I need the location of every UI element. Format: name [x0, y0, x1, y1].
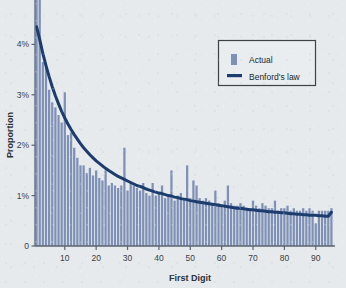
bar: [214, 191, 216, 246]
bar: [167, 196, 169, 246]
x-tick-label: 10: [60, 253, 70, 263]
bar: [79, 165, 81, 246]
y-tick-label: 4%: [17, 39, 30, 49]
bar: [158, 193, 160, 246]
bar: [221, 206, 223, 246]
x-tick-label: 90: [311, 253, 321, 263]
bar: [86, 173, 88, 246]
bar: [48, 90, 50, 246]
bar: [111, 183, 113, 246]
x-tick-label: 60: [217, 253, 227, 263]
bar: [230, 203, 232, 246]
bar: [142, 183, 144, 246]
bar: [70, 133, 72, 246]
legend-label-benford-law: Benford's law: [249, 72, 301, 82]
bar: [274, 201, 276, 246]
x-tick-label: 20: [91, 253, 101, 263]
bar: [123, 148, 125, 246]
bar: [35, 0, 37, 246]
y-tick-label: 0: [24, 241, 29, 251]
bar: [54, 107, 56, 246]
bar: [189, 198, 191, 246]
bar: [249, 208, 251, 246]
bar: [205, 198, 207, 246]
bar: [130, 183, 132, 246]
bar: [242, 206, 244, 246]
bar: [133, 186, 135, 246]
bar: [199, 198, 201, 246]
bar: [98, 178, 100, 246]
bar: [108, 186, 110, 246]
bar: [217, 203, 219, 246]
bar: [101, 180, 103, 246]
bar: [114, 186, 116, 246]
y-axis-label: Proportion: [5, 112, 15, 158]
bar: [208, 201, 210, 246]
x-tick-label: 80: [280, 253, 290, 263]
bar: [170, 170, 172, 246]
bar: [315, 223, 317, 246]
bar: [139, 191, 141, 246]
bar: [180, 193, 182, 246]
bar: [258, 208, 260, 246]
bar: [299, 211, 301, 246]
bar: [290, 211, 292, 246]
chart-legend[interactable]: Actual Benford's law: [219, 41, 316, 86]
legend-swatch-benford-law: [227, 74, 242, 77]
bar: [67, 135, 69, 246]
legend-label-actual: Actual: [249, 55, 273, 65]
x-tick-label: 40: [154, 253, 164, 263]
bar: [227, 186, 229, 246]
bar: [236, 206, 238, 246]
legend-swatch-actual: [231, 54, 237, 65]
chart-canvas: 01%2%3%4%5% 102030405060708090 Proportio…: [0, 0, 346, 288]
bar: [271, 208, 273, 246]
x-tick-label: 30: [123, 253, 133, 263]
bar: [173, 201, 175, 246]
benford-chart-figure: 01%2%3%4%5% 102030405060708090 Proportio…: [0, 0, 346, 288]
y-tick-label: 1%: [17, 191, 30, 201]
bar: [183, 198, 185, 246]
bar: [277, 211, 279, 246]
bar: [186, 165, 188, 246]
bar: [195, 186, 197, 246]
bar: [89, 168, 91, 246]
y-tick-label: 2%: [17, 140, 30, 150]
bar: [192, 180, 194, 246]
bar: [82, 165, 84, 246]
x-axis-label: First Digit: [169, 273, 211, 283]
bar: [202, 201, 204, 246]
bar: [117, 188, 119, 246]
bar: [177, 196, 179, 246]
bar: [126, 191, 128, 246]
bar: [246, 208, 248, 246]
bar: [61, 123, 63, 246]
bar: [95, 170, 97, 246]
bar: [155, 196, 157, 246]
bar: [268, 208, 270, 246]
bar: [120, 186, 122, 246]
bar: [164, 198, 166, 246]
bar: [148, 196, 150, 246]
bar: [211, 203, 213, 246]
bar: [296, 211, 298, 246]
bar: [57, 115, 59, 246]
bar: [145, 193, 147, 246]
bar: [233, 206, 235, 246]
x-tick-label: 50: [186, 253, 196, 263]
y-tick-label: 3%: [17, 90, 30, 100]
bar: [136, 188, 138, 246]
bar: [76, 158, 78, 246]
bar: [73, 148, 75, 246]
bar: [51, 102, 53, 246]
x-tick-label: 70: [248, 253, 258, 263]
bar: [45, 65, 47, 246]
bar: [252, 201, 254, 246]
bar: [104, 170, 106, 246]
bar: [92, 175, 94, 246]
bar: [42, 62, 44, 246]
